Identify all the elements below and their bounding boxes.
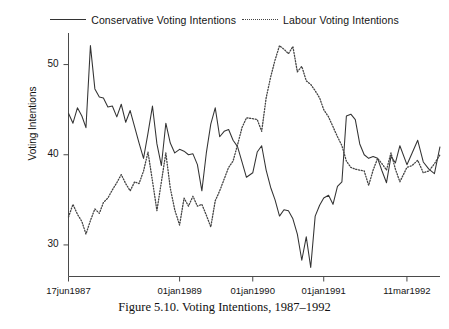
axis-lines <box>69 33 441 277</box>
x-tick-label-0: 17jun1987 <box>46 285 90 296</box>
series-line-labour <box>69 46 441 234</box>
x-tick-label-3: 01jan1991 <box>302 285 346 296</box>
x-tick-label-2: 01jan1990 <box>231 285 275 296</box>
chart-plot-area <box>0 0 449 300</box>
data-series-group <box>69 46 441 268</box>
x-axis-ticks <box>69 277 407 282</box>
x-tick-label-1: 01jan1989 <box>157 285 201 296</box>
figure-container: Conservative Voting Intentions Labour Vo… <box>0 0 449 329</box>
y-axis-ticks <box>64 65 69 245</box>
x-tick-label-4: 11mar1992 <box>383 285 430 296</box>
figure-caption: Figure 5.10. Voting Intentions, 1987–199… <box>0 300 449 315</box>
series-line-conservative <box>69 46 441 268</box>
